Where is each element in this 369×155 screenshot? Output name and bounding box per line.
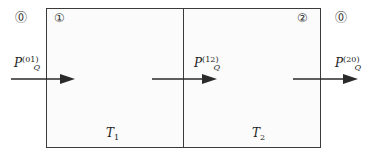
compartment-symbol: T	[252, 126, 260, 140]
arrowhead-icon	[343, 74, 358, 84]
compartment-subscript: 1	[114, 133, 119, 142]
compartment-1-label: T1	[106, 127, 119, 141]
flow-symbol: P	[14, 56, 22, 70]
region-0-right-marker: ⓪	[335, 12, 347, 24]
region-1-marker: ①	[54, 12, 65, 24]
region-0-left-marker: ⓪	[15, 12, 27, 24]
flow-subscript: Q	[355, 63, 362, 72]
region-2-marker: ②	[297, 12, 308, 24]
flow-label-01: P(01)Q	[14, 57, 40, 71]
compartment-subscript: 2	[260, 133, 265, 142]
flow-subscript: Q	[214, 63, 221, 72]
flow-subscript: Q	[34, 63, 41, 72]
flow-label-20: P(20)Q	[335, 57, 361, 71]
flow-symbol: P	[335, 56, 343, 70]
flow-label-12: P(12)Q	[194, 57, 220, 71]
flow-symbol: P	[194, 56, 202, 70]
compartment-symbol: T	[106, 126, 114, 140]
compartment-2-label: T2	[252, 127, 265, 141]
